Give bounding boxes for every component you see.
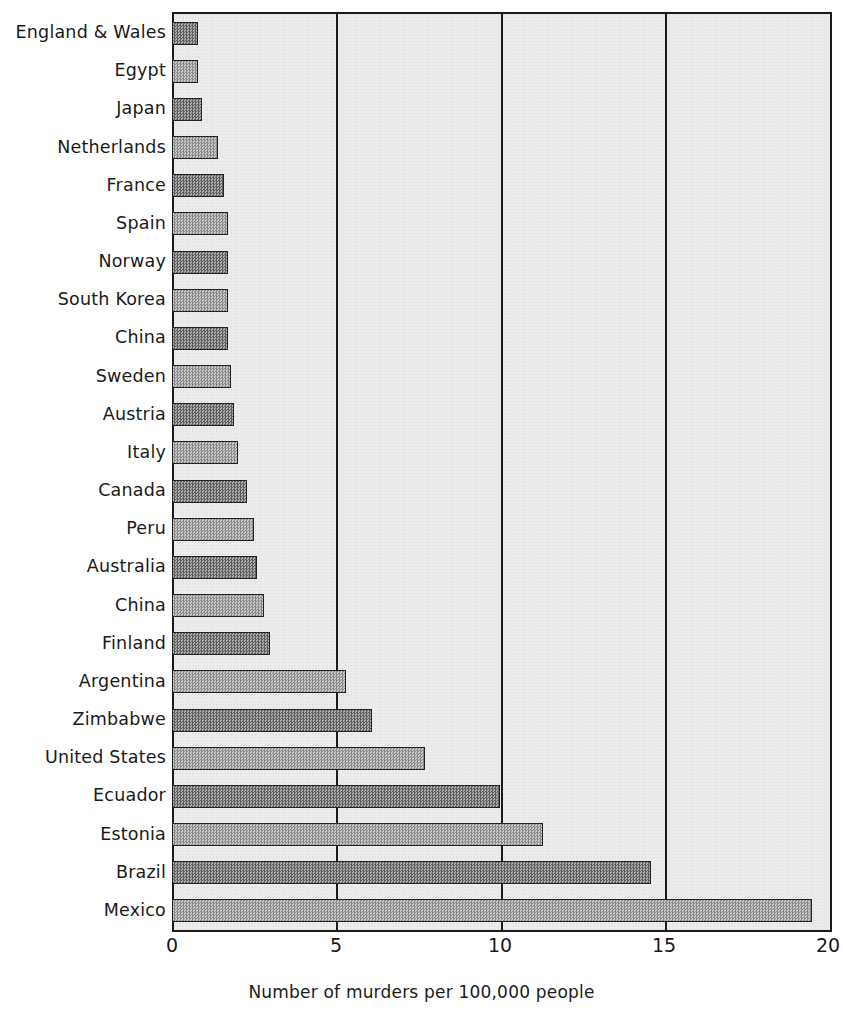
bar: [172, 709, 372, 732]
bar: [172, 98, 202, 121]
category-label: Ecuador: [93, 787, 166, 805]
bar: [172, 480, 247, 503]
bar-row: [172, 289, 832, 312]
bars-layer: [172, 12, 832, 932]
bar-row: [172, 174, 832, 197]
bar-row: [172, 823, 832, 846]
category-label: United States: [45, 749, 166, 767]
bar-row: [172, 403, 832, 426]
category-label: Mexico: [104, 902, 166, 920]
bar: [172, 632, 270, 655]
bar-row: [172, 98, 832, 121]
bar: [172, 785, 500, 808]
bar-row: [172, 632, 832, 655]
bar-row: [172, 60, 832, 83]
category-label: Estonia: [100, 826, 166, 844]
bar: [172, 823, 543, 846]
bar: [172, 327, 228, 350]
x-tick-label: 5: [330, 936, 342, 955]
bar-row: [172, 709, 832, 732]
murder-rate-bar-chart: England & WalesEgyptJapanNetherlandsFran…: [0, 0, 843, 1029]
bar-row: [172, 518, 832, 541]
category-label: Finland: [102, 635, 166, 653]
bar-row: [172, 899, 832, 922]
bar-row: [172, 22, 832, 45]
category-labels: England & WalesEgyptJapanNetherlandsFran…: [0, 12, 166, 932]
category-label: Spain: [116, 215, 166, 233]
bar-row: [172, 251, 832, 274]
category-label: Austria: [103, 406, 166, 424]
x-tick-label: 0: [166, 936, 178, 955]
category-label: Canada: [98, 482, 166, 500]
bar-row: [172, 365, 832, 388]
bar: [172, 136, 218, 159]
bar-row: [172, 861, 832, 884]
bar-row: [172, 670, 832, 693]
bar: [172, 556, 257, 579]
bar-row: [172, 136, 832, 159]
category-label: China: [115, 597, 166, 615]
category-label: Australia: [87, 558, 166, 576]
category-label: Brazil: [116, 864, 166, 882]
x-axis-ticks: 05101520: [172, 936, 832, 970]
bar: [172, 174, 224, 197]
x-tick-label: 20: [816, 936, 840, 955]
bar: [172, 365, 231, 388]
category-label: Norway: [98, 253, 166, 271]
bar: [172, 747, 425, 770]
category-label: South Korea: [58, 291, 166, 309]
category-label: Egypt: [115, 62, 167, 80]
x-tick-label: 15: [652, 936, 676, 955]
bar-row: [172, 556, 832, 579]
bar: [172, 441, 238, 464]
bar: [172, 289, 228, 312]
bar: [172, 212, 228, 235]
bar: [172, 403, 234, 426]
category-label: Zimbabwe: [72, 711, 166, 729]
bar-row: [172, 747, 832, 770]
category-label: Argentina: [79, 673, 166, 691]
category-label: Netherlands: [57, 139, 166, 157]
category-label: Japan: [116, 100, 166, 118]
bar-row: [172, 480, 832, 503]
category-label: Sweden: [96, 368, 166, 386]
bar-row: [172, 441, 832, 464]
category-label: Peru: [126, 520, 166, 538]
bar: [172, 861, 651, 884]
bar: [172, 518, 254, 541]
category-label: England & Wales: [16, 24, 166, 42]
bar: [172, 60, 198, 83]
bar-row: [172, 594, 832, 617]
bar: [172, 899, 812, 922]
category-label: France: [107, 177, 166, 195]
bar-row: [172, 212, 832, 235]
bar: [172, 251, 228, 274]
bar-row: [172, 785, 832, 808]
x-tick-label: 10: [488, 936, 512, 955]
category-label: China: [115, 329, 166, 347]
x-axis-title: Number of murders per 100,000 people: [0, 982, 843, 1002]
bar-row: [172, 327, 832, 350]
category-label: Italy: [127, 444, 166, 462]
bar: [172, 594, 264, 617]
bar: [172, 670, 346, 693]
bar: [172, 22, 198, 45]
